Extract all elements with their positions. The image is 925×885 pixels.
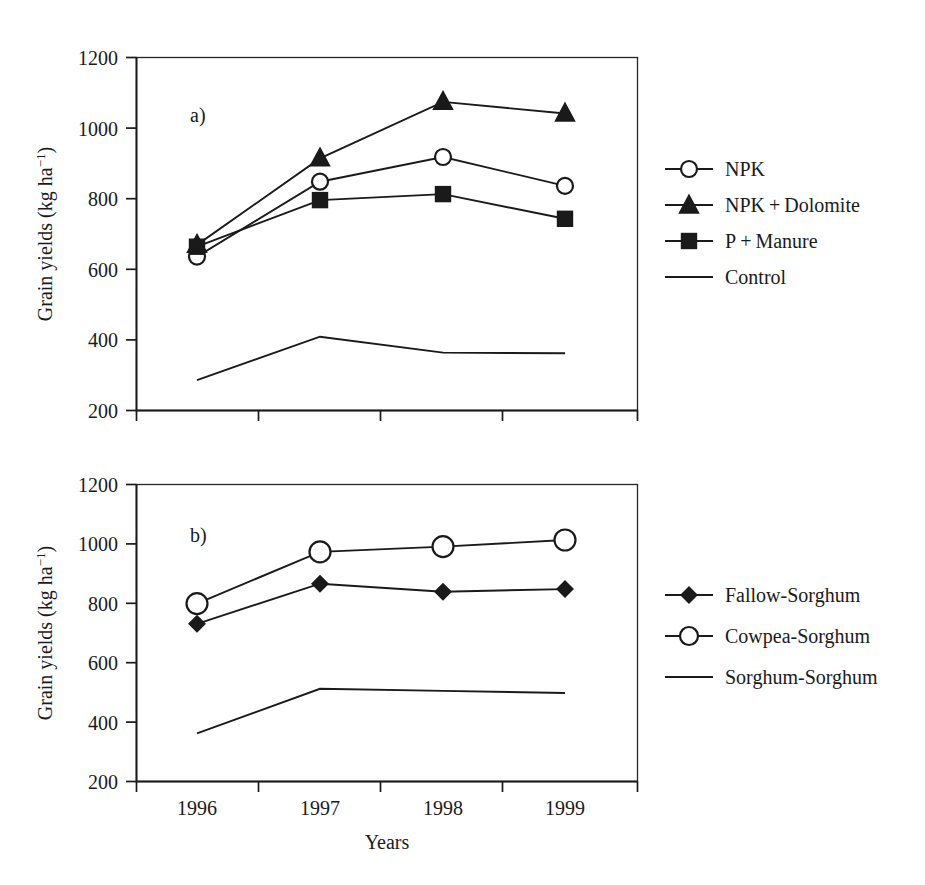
panel-b-ylabel-exp: −1 xyxy=(33,552,48,566)
series-line-fallow-sorghum xyxy=(197,584,565,624)
svg-text:Grain yields (kg ha−1): Grain yields (kg ha−1) xyxy=(33,546,57,720)
panel-a-ytick-200: 200 xyxy=(88,400,118,422)
xtick-1997: 1997 xyxy=(300,797,340,819)
panel-b-ytick-1000: 1000 xyxy=(78,533,118,555)
series-line-control xyxy=(197,337,565,380)
xtick-1999: 1999 xyxy=(545,797,585,819)
panel-b-ylabel-main: Grain yields (kg ha xyxy=(34,566,57,720)
panel-a-ytick-1200: 1200 xyxy=(78,47,118,69)
series-line-sorghum-sorghum xyxy=(197,689,565,734)
panel-b-plot: 1200 1000 800 600 400 200 Grain yields (… xyxy=(0,440,925,885)
panel-b-tag: b) xyxy=(190,524,207,547)
panel-a-ylabel-main: Grain yields (kg ha xyxy=(34,167,57,321)
panel-a-ylabel-exp: −1 xyxy=(33,153,48,167)
panel-a: 1200 1000 800 600 400 200 Grain yields (… xyxy=(0,0,925,440)
panel-a-ylabel-close: ) xyxy=(34,147,57,154)
panel-b-ytick-200: 200 xyxy=(88,771,118,793)
panel-b-y-ticks xyxy=(126,485,137,782)
panel-b-ylabel-close: ) xyxy=(34,546,57,553)
panel-b-ytick-600: 600 xyxy=(88,652,118,674)
panel-a-ytick-800: 800 xyxy=(88,188,118,210)
svg-text:Grain yields (kg ha−1): Grain yields (kg ha−1) xyxy=(33,147,57,321)
panel-a-ytick-600: 600 xyxy=(88,259,118,281)
panel-a-y-ticks xyxy=(126,58,137,411)
panel-a-tag: a) xyxy=(190,104,206,127)
panel-b-y-axis-title: Grain yields (kg ha−1) xyxy=(33,546,57,720)
figure-grain-yields: 1200 1000 800 600 400 200 Grain yields (… xyxy=(0,0,925,885)
xtick-1996: 1996 xyxy=(177,797,217,819)
series-markers-npk xyxy=(189,149,573,265)
series-markers-fallow-sorghum xyxy=(189,576,573,632)
panel-a-x-ticks xyxy=(137,411,638,422)
x-axis-title: Years xyxy=(365,831,410,853)
panel-b-x-ticks xyxy=(137,782,638,793)
series-line-cowpea-sorghum xyxy=(197,540,565,604)
panel-b: 1200 1000 800 600 400 200 Grain yields (… xyxy=(0,440,925,885)
panel-a-ytick-1000: 1000 xyxy=(78,118,118,140)
panel-a-ytick-400: 400 xyxy=(88,329,118,351)
panel-b-ytick-800: 800 xyxy=(88,593,118,615)
series-line-p-manure xyxy=(197,194,565,247)
panel-a-y-axis-title: Grain yields (kg ha−1) xyxy=(33,147,57,321)
xtick-1998: 1998 xyxy=(423,797,463,819)
panel-b-ytick-1200: 1200 xyxy=(78,474,118,496)
panel-b-ytick-400: 400 xyxy=(88,712,118,734)
panel-a-plot: 1200 1000 800 600 400 200 Grain yields (… xyxy=(0,0,925,440)
